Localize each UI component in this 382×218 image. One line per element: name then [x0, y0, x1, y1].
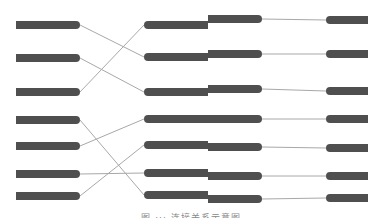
- right-bar: [326, 144, 368, 152]
- middle-bar-left-segment: [144, 191, 208, 199]
- link-middle-to-right: [262, 89, 326, 91]
- middle-bar-right-segment: [208, 85, 262, 93]
- middle-bar-right-segment: [208, 143, 262, 151]
- middle-bar-left-segment: [144, 88, 208, 96]
- link-left-to-middle: [80, 58, 144, 92]
- middle-bar-right-segment: [208, 195, 262, 203]
- right-bar: [326, 172, 368, 180]
- right-bar: [326, 115, 368, 123]
- left-bar: [16, 116, 80, 124]
- right-bar: [326, 16, 368, 24]
- link-left-to-middle: [80, 119, 144, 146]
- figure-caption: 图 ··· 连接关系示意图: [0, 211, 382, 218]
- middle-bar-left-segment: [144, 141, 208, 149]
- left-bar: [16, 21, 80, 29]
- left-bar: [16, 170, 80, 178]
- middle-bar-left-segment: [144, 21, 208, 29]
- middle-bar-right-segment: [208, 50, 262, 58]
- left-bar: [16, 142, 80, 150]
- link-middle-to-right: [262, 19, 326, 20]
- left-bar: [16, 192, 80, 200]
- middle-bar-right-segment: [208, 15, 262, 23]
- left-bar: [16, 54, 80, 62]
- middle-bar-right-segment: [208, 172, 262, 180]
- link-left-to-middle: [80, 25, 144, 57]
- right-bar: [326, 87, 368, 95]
- middle-bar-left-segment: [144, 53, 208, 61]
- right-bar: [326, 194, 368, 202]
- link-left-to-middle: [80, 120, 144, 195]
- middle-bar-right-segment: [208, 115, 262, 123]
- right-bar: [326, 50, 368, 58]
- link-middle-to-right: [262, 198, 326, 199]
- connection-diagram: [0, 0, 382, 218]
- link-left-to-middle: [80, 173, 144, 174]
- middle-bar-left-segment: [144, 169, 208, 177]
- left-bar: [16, 88, 80, 96]
- link-left-to-middle: [80, 25, 144, 92]
- link-middle-to-right: [262, 147, 326, 148]
- link-left-to-middle: [80, 145, 144, 196]
- middle-bar-left-segment: [144, 115, 208, 123]
